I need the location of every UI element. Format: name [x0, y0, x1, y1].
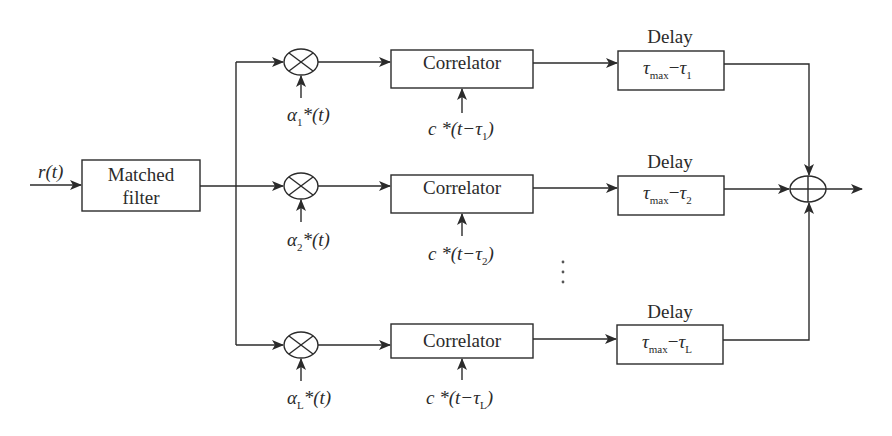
delay1-to-summer-arrow [724, 64, 809, 175]
input-label: r(t) [38, 161, 63, 183]
delay-title: Delay [647, 26, 693, 47]
multiplier-icon [284, 49, 318, 75]
delay-title: Delay [647, 151, 693, 172]
weight-label: αL*(t) [287, 387, 331, 411]
delayL-to-summer-arrow [723, 203, 809, 340]
split-network [200, 62, 283, 345]
weight-label: α1*(t) [287, 104, 330, 128]
code-label: c *(t−τ2) [428, 243, 494, 267]
delay-title: Delay [647, 301, 693, 322]
branch-L: αL*(t) Correlator c *(t−τL) Delay τmax−τ… [284, 203, 809, 411]
weight-label: α2*(t) [287, 229, 330, 253]
branch-2: α2*(t) Correlator c *(t−τ2) Delay τmax−τ… [284, 151, 789, 267]
ellipsis-dots [562, 261, 565, 284]
correlator-label: Correlator [423, 177, 502, 198]
summer-icon [790, 176, 826, 202]
branch-1: α1*(t) Correlator c *(t−τ1) Delay τmax−τ… [284, 26, 809, 175]
matched-filter-label-line2: filter [123, 187, 161, 208]
input-signal: r(t) [30, 161, 81, 185]
code-label: c *(t−τL) [426, 387, 493, 411]
matched-filter-label-line1: Matched [108, 164, 175, 185]
code-label: c *(t−τ1) [428, 118, 494, 142]
multiplier-icon [284, 332, 318, 358]
multiplier-icon [284, 173, 318, 199]
correlator-label: Correlator [423, 330, 502, 351]
rake-receiver-diagram: r(t) Matched filter α1*(t) Correlator c … [0, 0, 892, 436]
matched-filter-block: Matched filter [82, 160, 200, 211]
correlator-label: Correlator [423, 52, 502, 73]
